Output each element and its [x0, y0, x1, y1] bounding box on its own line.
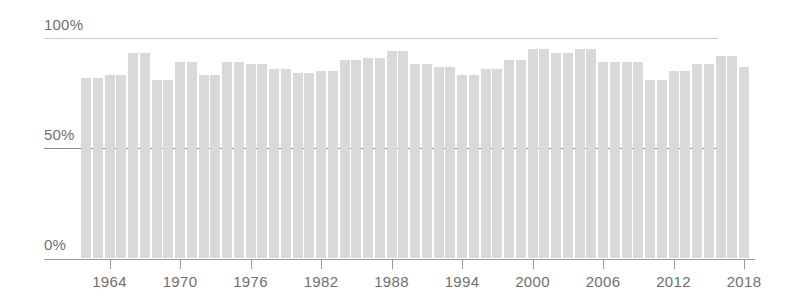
bar — [140, 53, 150, 258]
bar — [128, 53, 138, 258]
bar — [152, 80, 162, 258]
bar — [645, 80, 655, 258]
bar — [281, 69, 291, 258]
bar — [422, 64, 432, 258]
bar — [257, 64, 267, 258]
x-axis-tick-label: 2006 — [586, 273, 621, 290]
bar — [504, 60, 514, 258]
bar — [680, 71, 690, 258]
x-axis-tick — [180, 260, 181, 269]
x-axis-tick — [533, 260, 534, 269]
bar — [363, 58, 373, 258]
bar — [199, 75, 209, 258]
bar — [434, 67, 444, 258]
bar — [351, 60, 361, 258]
bar — [105, 75, 115, 258]
x-axis-tick-label: 2000 — [515, 273, 550, 290]
bar — [410, 64, 420, 258]
bar — [528, 49, 538, 258]
x-axis-tick — [392, 260, 393, 269]
bar — [598, 62, 608, 258]
bar — [328, 71, 338, 258]
x-axis-tick-label: 1994 — [445, 273, 480, 290]
bar — [633, 62, 643, 258]
bar — [293, 73, 303, 258]
bar-series — [81, 20, 751, 258]
bar — [187, 62, 197, 258]
x-axis-tick-label: 1964 — [92, 273, 127, 290]
x-axis-tick-label: 2012 — [656, 273, 691, 290]
bar — [727, 56, 737, 258]
x-axis-tick — [462, 260, 463, 269]
bar — [551, 53, 561, 258]
bar — [563, 53, 573, 258]
x-axis-tick-label: 1982 — [304, 273, 339, 290]
bar — [492, 69, 502, 258]
y-axis-tick-label-100: 100% — [44, 16, 83, 33]
x-axis-line — [44, 259, 755, 260]
bar — [657, 80, 667, 258]
x-axis-tick — [744, 260, 745, 269]
bar — [375, 58, 385, 258]
x-axis-tick-label: 2018 — [727, 273, 762, 290]
bar — [539, 49, 549, 258]
bar — [457, 75, 467, 258]
bar — [163, 80, 173, 258]
y-axis-tick-label-0: 0% — [44, 236, 66, 253]
bar — [586, 49, 596, 258]
bar — [716, 56, 726, 258]
bar — [93, 78, 103, 258]
bar — [692, 64, 702, 258]
bar — [481, 69, 491, 258]
bar — [575, 49, 585, 258]
x-axis-tick — [321, 260, 322, 269]
bar — [445, 67, 455, 258]
bar — [622, 62, 632, 258]
x-axis-tick — [603, 260, 604, 269]
x-axis-tick-label: 1976 — [233, 273, 268, 290]
bar — [387, 51, 397, 258]
x-axis-tick — [674, 260, 675, 269]
bar — [210, 75, 220, 258]
y-axis-tick-label-50: 50% — [44, 126, 75, 143]
bar — [222, 62, 232, 258]
x-axis-tick-label: 1988 — [374, 273, 409, 290]
bar — [316, 71, 326, 258]
bar — [704, 64, 714, 258]
x-axis-tick — [251, 260, 252, 269]
bar — [610, 62, 620, 258]
bar — [304, 73, 314, 258]
bar — [234, 62, 244, 258]
bar — [116, 75, 126, 258]
bar — [739, 67, 749, 258]
bar-chart: 100% 50% 0% 1964197019761982198819942000… — [0, 0, 792, 307]
bar — [246, 64, 256, 258]
bar — [269, 69, 279, 258]
bar — [669, 71, 679, 258]
x-axis-tick — [110, 260, 111, 269]
bar — [340, 60, 350, 258]
bar — [175, 62, 185, 258]
bar — [398, 51, 408, 258]
bar — [469, 75, 479, 258]
x-axis-tick-label: 1970 — [163, 273, 198, 290]
bar — [516, 60, 526, 258]
bar — [81, 78, 91, 258]
